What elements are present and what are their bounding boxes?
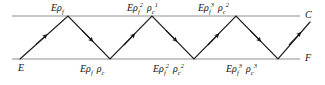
top-label-1: Eρf: [51, 2, 64, 16]
bottom-label-2-sup1: 2: [166, 62, 169, 69]
axis-label-c: C: [305, 10, 312, 20]
bottom-label-2-sub1: f: [164, 69, 166, 76]
top-label-3-sup2: 2: [226, 1, 229, 8]
top-label-2-sup2: 1: [155, 1, 158, 8]
direction-arrowheads: [36, 30, 300, 45]
bottom-label-2: Eρf2ρc2: [153, 63, 184, 77]
bottom-label-3-sub2: c: [251, 69, 254, 76]
origin-label-e: E: [18, 63, 24, 73]
arrow-seg-1: [36, 35, 46, 44]
top-label-2-sup1: 2: [140, 1, 143, 8]
bottom-label-1-sub2: c: [102, 69, 105, 76]
arrow-seg-4: [166, 30, 176, 40]
bottom-label-3-sub1: f: [237, 69, 239, 76]
top-label-2-sub1: f: [138, 8, 140, 15]
bottom-label-1-sub1: f: [91, 69, 93, 76]
top-label-3-sub1: f: [209, 8, 211, 15]
arrow-seg-7: [289, 33, 300, 45]
arrow-seg-6: [250, 30, 260, 40]
arrow-seg-2: [82, 30, 92, 40]
zigzag-ray-path: [20, 16, 310, 59]
bottom-label-2-sup2: 2: [181, 62, 184, 69]
bottom-label-1: Eρfρc: [80, 63, 104, 77]
axis-label-f: F: [305, 53, 311, 63]
arrow-seg-5: [208, 35, 218, 45]
bottom-label-2-sub2: c: [178, 69, 181, 76]
top-label-3-sub2: c: [223, 8, 226, 15]
diagram-canvas: E C F Eρf Eρf2ρc1 Eρf3ρc2 Eρfρc Eρf2ρc2 …: [0, 0, 325, 85]
top-label-3: Eρf3ρc2: [198, 2, 229, 16]
bottom-label-3: Eρf3ρc3: [226, 63, 257, 77]
top-label-2-sub2: c: [152, 8, 155, 15]
top-label-3-sup1: 3: [211, 1, 214, 8]
bottom-label-3-sup2: 3: [254, 62, 257, 69]
top-label-2: Eρf2ρc1: [127, 2, 158, 16]
bottom-label-3-sup1: 3: [239, 62, 242, 69]
top-label-1-sub1: f: [62, 8, 64, 15]
arrow-seg-3: [124, 35, 134, 45]
